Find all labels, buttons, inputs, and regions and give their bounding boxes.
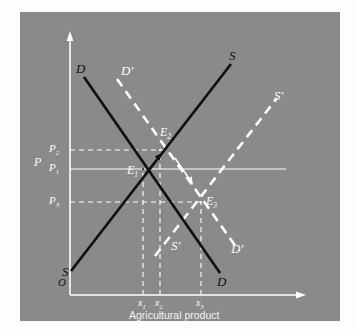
y-axis-label: P: [34, 156, 41, 168]
x-axis-arrowhead: [296, 292, 306, 299]
x-axis-caption: Agricultural product: [129, 309, 219, 321]
shifted-curves-group: [117, 79, 277, 256]
equilibrium-dot-e3: [200, 201, 202, 203]
equilibrium-label-e2: E2: [160, 126, 171, 141]
y-tick-p1-base: P: [49, 161, 56, 173]
reference-lines-group: [70, 150, 286, 295]
equilibrium-label-e3-sub: 3: [213, 201, 217, 210]
equilibrium-dot-e2: [159, 149, 161, 151]
y-tick-p3-base: P: [49, 194, 56, 206]
demand-curve-label-top: D: [76, 62, 85, 75]
equilibrium-label-e1-sub: 1: [134, 170, 138, 179]
y-tick-p2-base: P: [49, 142, 56, 154]
axes-group: [67, 31, 306, 298]
figure-container: O P P2 P1 P3 x1 x2 x3 Agricultural produ…: [0, 0, 355, 333]
y-tick-p1: P1: [49, 162, 59, 176]
supply-shift-curve: [155, 98, 277, 256]
equilibrium-label-e3: E3: [206, 195, 217, 210]
demand-curve-label-bottom: D: [217, 275, 226, 288]
equilibrium-dot-e1: [142, 168, 144, 170]
y-axis-arrowhead: [67, 31, 74, 41]
y-tick-p2: P2: [49, 143, 59, 157]
equilibrium-label-e1: E1: [127, 164, 138, 179]
supply-shift-curve-label-bottom: S': [171, 239, 180, 252]
y-tick-p3: P3: [49, 195, 59, 209]
equilibrium-label-e2-sub: 2: [167, 132, 171, 141]
y-tick-p2-sub: 2: [56, 149, 59, 156]
y-tick-p3-sub: 3: [56, 201, 59, 208]
demand-shift-curve-label-top: D': [121, 64, 133, 77]
demand-shift-curve-label-bottom: D': [231, 242, 243, 255]
y-tick-p1-sub: 1: [56, 168, 59, 175]
arrow-e1-to-e2-shaft: [146, 157, 159, 173]
supply-curve-label-bottom: S: [62, 265, 69, 278]
supply-shift-curve-label-top: S': [274, 89, 283, 102]
supply-curve-label-top: S: [229, 49, 236, 62]
